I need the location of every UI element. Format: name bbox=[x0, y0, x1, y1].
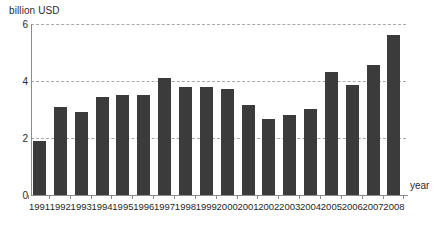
x-tick-label: 2008 bbox=[380, 201, 408, 212]
bar bbox=[137, 95, 150, 195]
bar bbox=[304, 109, 317, 195]
y-axis-tick-labels: 6 4 2 0 bbox=[3, 0, 28, 226]
x-tick-mark bbox=[257, 195, 258, 199]
x-axis-tick-marks bbox=[31, 195, 408, 199]
x-tick-mark bbox=[341, 195, 342, 199]
bar bbox=[325, 72, 338, 195]
bar bbox=[221, 89, 234, 195]
x-tick-mark bbox=[153, 195, 154, 199]
bars-layer bbox=[31, 24, 408, 195]
bar-chart: billion USD 6 4 2 0 19911992199319941995… bbox=[0, 0, 438, 226]
x-tick-mark bbox=[237, 195, 238, 199]
y-tick-label: 2 bbox=[6, 133, 28, 144]
bar bbox=[242, 105, 255, 195]
x-tick-mark bbox=[320, 195, 321, 199]
bar bbox=[179, 87, 192, 195]
x-tick-mark bbox=[91, 195, 92, 199]
bar bbox=[200, 87, 213, 195]
x-tick-mark bbox=[216, 195, 217, 199]
bar bbox=[54, 107, 67, 195]
bar bbox=[33, 141, 46, 195]
x-tick-mark bbox=[299, 195, 300, 199]
bar bbox=[367, 65, 380, 195]
x-tick-mark bbox=[49, 195, 50, 199]
x-tick-mark bbox=[111, 195, 112, 199]
x-tick-mark bbox=[362, 195, 363, 199]
x-tick-mark bbox=[70, 195, 71, 199]
bar bbox=[116, 95, 129, 195]
x-tick-mark bbox=[383, 195, 384, 199]
x-tick-mark bbox=[28, 195, 29, 199]
x-axis-tick-labels: 1991199219931994199519961997199819992000… bbox=[31, 201, 408, 217]
bar bbox=[75, 112, 88, 195]
bar bbox=[283, 115, 296, 195]
bar bbox=[346, 85, 359, 195]
bar bbox=[96, 97, 109, 195]
y-tick-label: 0 bbox=[6, 190, 28, 201]
x-tick-mark bbox=[195, 195, 196, 199]
x-tick-mark bbox=[174, 195, 175, 199]
y-tick-label: 6 bbox=[6, 19, 28, 30]
bar bbox=[262, 119, 275, 195]
x-tick-mark bbox=[403, 195, 404, 199]
bar bbox=[387, 35, 400, 195]
x-tick-mark bbox=[132, 195, 133, 199]
bar bbox=[158, 78, 171, 195]
y-tick-label: 4 bbox=[6, 76, 28, 87]
x-tick-mark bbox=[278, 195, 279, 199]
x-axis-title: year bbox=[410, 180, 429, 191]
